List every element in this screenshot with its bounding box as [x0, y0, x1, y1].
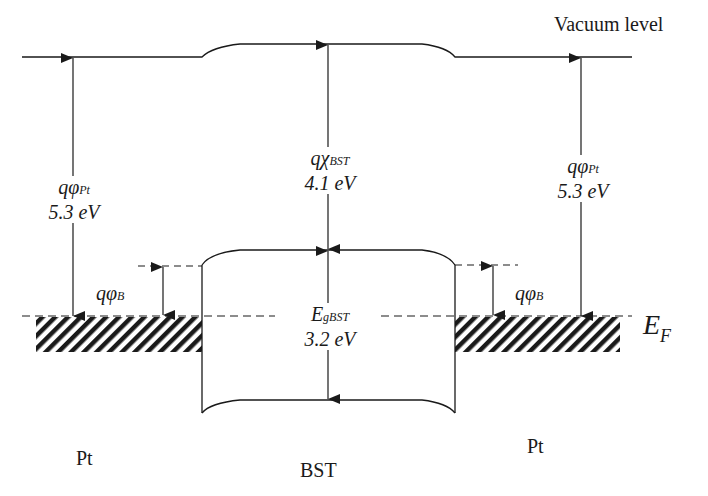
ea-value: 4.1 eV: [286, 172, 374, 194]
ea-symbol: qχ: [311, 147, 330, 169]
barrier-right-label: qφB: [515, 283, 543, 303]
eg-sub: gBST: [323, 310, 349, 324]
right-metal-filled-states: [455, 317, 620, 352]
barrier-left-label: qφB: [96, 283, 124, 303]
band-gap-label: EgBST 3.2 eV: [282, 303, 378, 350]
wf-right-symbol: qφ: [567, 155, 588, 177]
barrier-left-sub: B: [117, 289, 124, 303]
ea-sub: BST: [329, 154, 349, 168]
wf-left-sub: Pt: [79, 183, 90, 197]
wf-left-value: 5.3 eV: [38, 201, 110, 223]
fermi-main: E: [643, 309, 660, 340]
eg-symbol: E: [311, 303, 323, 325]
left-metal-filled-states: [36, 317, 202, 352]
fermi-level-label: EF: [643, 311, 671, 339]
barrier-right-sub: B: [536, 289, 543, 303]
eg-value: 3.2 eV: [284, 328, 376, 350]
wf-right-value: 5.3 eV: [546, 180, 620, 202]
insulator-label: BST: [300, 460, 337, 480]
barrier-left-symbol: qφ: [96, 282, 117, 304]
left-metal-label: Pt: [76, 448, 93, 468]
band-diagram-canvas: [0, 0, 708, 496]
wf-right-sub: Pt: [588, 162, 599, 176]
electron-affinity-label: qχBST 4.1 eV: [284, 147, 376, 194]
fermi-sub: F: [660, 326, 671, 346]
wf-left-symbol: qφ: [58, 176, 79, 198]
valence-band-edge: [202, 400, 455, 413]
work-function-right-label: qφPt 5.3 eV: [544, 155, 622, 202]
vacuum-level-line: [22, 44, 632, 57]
right-metal-label: Pt: [527, 436, 544, 456]
vacuum-level-label: Vacuum level: [554, 14, 663, 34]
barrier-right-symbol: qφ: [515, 282, 536, 304]
work-function-left-label: qφPt 5.3 eV: [36, 176, 112, 223]
